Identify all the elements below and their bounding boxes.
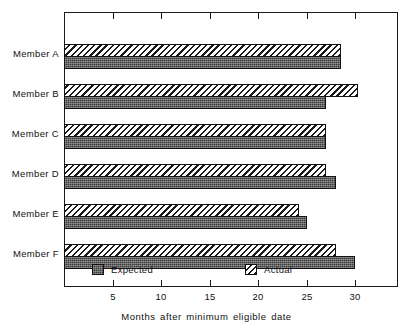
- xtick-bottom-30: [355, 280, 356, 287]
- x-axis-title: Months after minimum eligible date: [0, 311, 413, 322]
- xtick-bottom-25: [307, 280, 308, 287]
- ytick-label-member-d: Member D: [0, 168, 59, 179]
- bar-chart: Member A Member B Member C Member D Memb…: [0, 0, 413, 332]
- dark-dither-swatch: [92, 264, 104, 275]
- xtick-top-25: [307, 12, 308, 19]
- legend-item-expected: Expected: [92, 264, 153, 275]
- xtick-top-10: [161, 12, 162, 19]
- bar-expected-member-a: [64, 56, 341, 69]
- xtick-label-25: 25: [301, 291, 312, 302]
- ytick-label-member-f: Member F: [0, 248, 59, 259]
- ytick-label-member-c: Member C: [0, 128, 59, 139]
- xtick-bottom-10: [161, 280, 162, 287]
- xtick-label-10: 10: [155, 291, 166, 302]
- xtick-bottom-5: [113, 280, 114, 287]
- bar-expected-member-d: [64, 176, 336, 189]
- legend-item-actual: Actual: [245, 264, 292, 275]
- xtick-bottom-20: [258, 280, 259, 287]
- xtick-label-15: 15: [204, 291, 215, 302]
- ytick-label-member-b: Member B: [0, 88, 59, 99]
- xtick-label-5: 5: [110, 291, 116, 302]
- bar-expected-member-b: [64, 96, 326, 109]
- legend-label-actual: Actual: [264, 264, 292, 275]
- ytick-label-member-a: Member A: [0, 48, 59, 59]
- legend-label-expected: Expected: [111, 264, 153, 275]
- xtick-label-20: 20: [252, 291, 263, 302]
- xtick-top-20: [258, 12, 259, 19]
- bar-expected-member-c: [64, 136, 326, 149]
- diagonal-hatch-swatch: [245, 264, 257, 275]
- xtick-top-5: [113, 12, 114, 19]
- bar-expected-member-e: [64, 216, 307, 229]
- xtick-bottom-15: [210, 280, 211, 287]
- ytick-label-member-e: Member E: [0, 208, 59, 219]
- xtick-top-15: [210, 12, 211, 19]
- xtick-label-30: 30: [349, 291, 360, 302]
- xtick-top-30: [355, 12, 356, 19]
